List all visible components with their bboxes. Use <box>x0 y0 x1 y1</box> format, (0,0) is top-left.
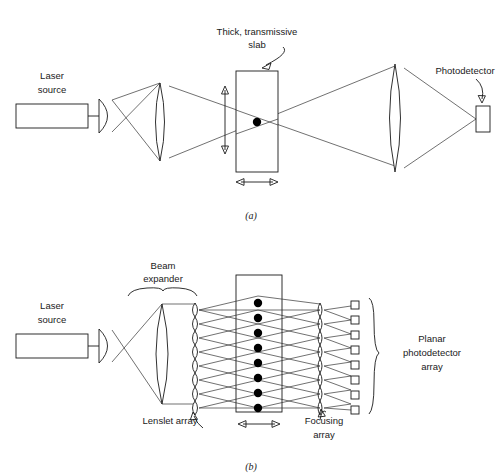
slab-dot-3 <box>254 329 262 337</box>
panel-a-laser-source-label-line2: source <box>38 84 67 95</box>
detector-pixel-2 <box>351 316 359 324</box>
lenslet-7 <box>193 387 198 401</box>
slab-dot-2 <box>254 314 262 322</box>
slab-dot-8 <box>254 404 262 412</box>
detector-pixel-6 <box>351 376 359 384</box>
detector-pixel-7 <box>351 391 359 399</box>
panel-a-slab-label-line2: slab <box>248 39 265 50</box>
lenslet-4 <box>193 345 198 359</box>
optical-diagram-figure: Laser source <box>0 0 501 475</box>
detector-pixel-3 <box>351 331 359 339</box>
panel-b-caption: (b) <box>245 461 257 473</box>
detector-pixel-5 <box>351 361 359 369</box>
detector-pixel-8 <box>351 406 359 414</box>
lenslet-3 <box>193 331 198 345</box>
slab-dot-1 <box>254 299 262 307</box>
slab-dot-6 <box>254 374 262 382</box>
panel-a-focal-dot <box>253 118 261 126</box>
panel-b-lenslet-array-label: Lenslet array <box>143 415 198 426</box>
panel-b-planar-array-label-line2: photodetector <box>403 347 461 358</box>
detector-pixel-4 <box>351 346 359 354</box>
panel-b-laser-source-label-line1: Laser <box>40 300 64 311</box>
diagram-canvas: Laser source <box>0 0 501 475</box>
panel-a-photodetector-box <box>476 106 490 132</box>
panel-a-laser-source-box <box>16 104 88 128</box>
panel-b-beam-expander-label-line1: Beam <box>151 260 176 271</box>
panel-b-planar-array-label-line1: Planar <box>418 333 445 344</box>
panel-b-planar-array-label-line3: array <box>421 361 443 372</box>
panel-b-laser-source-box <box>16 334 88 358</box>
panel-a-photodetector-label: Photodetector <box>435 65 494 76</box>
panel-b-laser-source-label-line2: source <box>38 314 67 325</box>
panel-b-focusing-array-label-line2: array <box>313 429 335 440</box>
lenslet-1 <box>193 303 198 317</box>
lenslet-2 <box>193 317 198 331</box>
panel-a-caption: (a) <box>245 210 257 222</box>
panel-a-slab-label-line1: Thick, transmissive <box>217 26 298 37</box>
panel-b-beam-expander-label-line2: expander <box>143 273 183 284</box>
lenslet-6 <box>193 373 198 387</box>
slab-dot-7 <box>254 389 262 397</box>
lenslet-5 <box>193 359 198 373</box>
slab-dot-5 <box>254 359 262 367</box>
detector-pixel-1 <box>351 301 359 309</box>
slab-dot-4 <box>254 344 262 352</box>
panel-a-laser-source-label-line1: Laser <box>40 70 64 81</box>
